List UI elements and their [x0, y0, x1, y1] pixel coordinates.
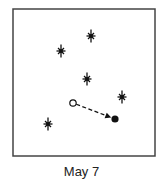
star-field-diagram	[0, 0, 163, 183]
moving-object-group	[70, 100, 119, 123]
figure-caption: May 7	[0, 164, 163, 179]
sky-frame	[13, 9, 155, 156]
motion-path-dashed-line	[76, 104, 107, 116]
star-icon	[44, 118, 53, 131]
star-icon	[57, 45, 66, 58]
end-position-filled-circle	[111, 115, 118, 122]
star-icon	[83, 73, 92, 86]
start-position-open-circle	[70, 100, 76, 106]
arrowhead-icon	[105, 113, 112, 119]
star-icon	[87, 30, 96, 43]
star-icon	[118, 91, 127, 104]
stars-group	[44, 30, 127, 131]
